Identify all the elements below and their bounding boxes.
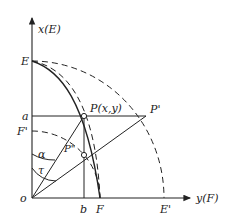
label-tau: τ: [38, 164, 45, 177]
label-f: F: [95, 203, 104, 216]
horizontal-axis-label: y(F): [195, 192, 218, 205]
label-alpha: α: [38, 148, 46, 161]
label-e: E: [20, 55, 29, 68]
outer-dashed-circle: [32, 61, 164, 198]
label-b: b: [80, 203, 87, 216]
vertical-axis-label: x(E): [38, 23, 61, 36]
label-p-double-prime: P": [63, 143, 75, 154]
label-p: P(x,y): [89, 102, 122, 115]
origin-label: o: [20, 192, 27, 205]
label-p-prime: P': [149, 103, 160, 116]
point-p: [81, 113, 86, 118]
ellipse-construction-diagram: x(E) y(F) o E a F' P(x,y) P' P" α τ b F …: [0, 0, 228, 220]
label-e-prime: E': [159, 203, 171, 216]
point-p-double-prime: [81, 152, 86, 157]
ray-o-to-p-prime: [32, 116, 146, 198]
label-a: a: [22, 110, 29, 123]
label-f-prime: F': [16, 125, 28, 138]
